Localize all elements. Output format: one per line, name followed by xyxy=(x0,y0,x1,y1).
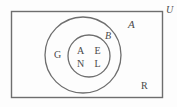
set-b-label: B xyxy=(105,31,111,41)
element-l: L xyxy=(94,59,100,69)
set-diagram: U A B G R A E N L xyxy=(0,0,177,107)
element-r: R xyxy=(141,81,148,91)
element-e: E xyxy=(94,46,100,56)
universal-set-label: U xyxy=(166,5,173,15)
set-a-label: A xyxy=(128,19,135,30)
set-b-elements: A E N L xyxy=(72,44,106,70)
element-g: G xyxy=(54,50,61,60)
element-a: A xyxy=(77,46,84,56)
element-n: N xyxy=(77,59,84,69)
